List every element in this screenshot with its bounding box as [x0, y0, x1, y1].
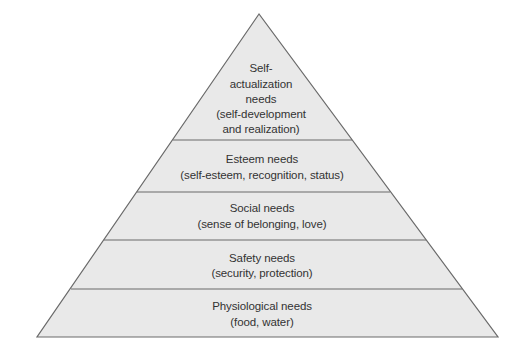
maslow-pyramid-diagram: Self- actualization needs (self-developm… [0, 0, 509, 348]
level-1-line-3: needs [246, 93, 277, 105]
level-1-line-1: Self- [249, 62, 272, 74]
level-1-line-5: and realization) [222, 123, 299, 135]
level-1-line-2: actualization [230, 78, 293, 90]
level-4-line-1: Safety needs [229, 252, 295, 264]
level-3-line-1: Social needs [230, 202, 295, 214]
level-3-line-2: (sense of belonging, love) [197, 218, 326, 230]
level-2-line-2: (self-esteem, recognition, status) [180, 169, 344, 181]
level-1-line-4: (self-development [216, 108, 307, 120]
level-5-line-1: Physiological needs [212, 300, 312, 312]
level-5-line-2: (food, water) [230, 316, 294, 328]
level-4-line-2: (security, protection) [211, 267, 312, 279]
level-2-line-1: Esteem needs [226, 153, 299, 165]
